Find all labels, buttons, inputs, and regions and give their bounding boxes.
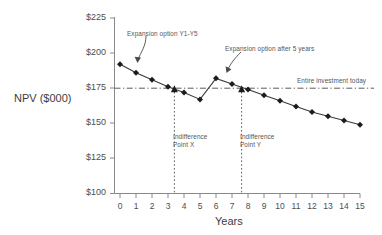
npv-data-point	[229, 81, 235, 87]
npv-data-point	[293, 103, 299, 109]
x-tick-label-14: 14	[337, 201, 351, 211]
npv-data-point	[181, 89, 187, 95]
indifference-point-y-label-line2: Point Y	[240, 141, 261, 149]
npv-data-point	[325, 113, 331, 119]
npv-series-line	[120, 64, 360, 124]
x-tick-label-10: 10	[273, 201, 287, 211]
npv-data-point	[277, 98, 283, 104]
x-tick-label-11: 11	[289, 201, 303, 211]
chart-container: $225 $200 $175 $150 $125 $100 NPV ($000)…	[0, 0, 382, 235]
x-tick-label-6: 6	[209, 201, 223, 211]
x-tick-label-4: 4	[177, 201, 191, 211]
annotation-expansion-y1y5: Expansion option Y1-Y5	[127, 30, 198, 37]
y-axis-title: NPV ($000)	[14, 92, 71, 104]
npv-data-point	[357, 122, 363, 128]
npv-data-point	[341, 117, 347, 123]
x-tick-label-12: 12	[305, 201, 319, 211]
y-tick-label-200: $200	[72, 47, 106, 57]
npv-data-point	[149, 77, 155, 83]
x-tick-label-1: 1	[129, 201, 143, 211]
npv-data-point	[309, 109, 315, 115]
npv-data-point	[245, 87, 251, 93]
indifference-point-x-label-line2: Point X	[173, 141, 194, 149]
annotation-arrow-expansion-y1y5	[138, 36, 147, 61]
y-tick-label-150: $150	[72, 117, 106, 127]
npv-series-markers	[117, 61, 363, 127]
annotation-arrow-expansion-after5	[228, 52, 242, 71]
npv-data-point	[133, 70, 139, 76]
y-tick-label-225: $225	[72, 12, 106, 22]
annotation-entire-investment: Entire investment today	[297, 77, 366, 84]
npv-data-point	[261, 92, 267, 98]
y-tick-label-175: $175	[72, 82, 106, 92]
y-tick-label-100: $100	[72, 187, 106, 197]
x-axis-ticks	[120, 194, 360, 199]
indifference-point-y-label-line1: Indifference	[240, 133, 274, 141]
x-tick-label-3: 3	[161, 201, 175, 211]
indifference-point-x-label-line1: Indifference	[173, 133, 207, 141]
x-tick-label-7: 7	[225, 201, 239, 211]
x-tick-label-9: 9	[257, 201, 271, 211]
y-axis-ticks	[110, 18, 115, 194]
x-tick-label-2: 2	[145, 201, 159, 211]
npv-data-point	[165, 84, 171, 90]
x-tick-label-0: 0	[113, 201, 127, 211]
npv-data-point	[117, 61, 123, 67]
x-tick-label-15: 15	[353, 201, 367, 211]
annotation-arrowhead-expansion-y1y5	[135, 57, 141, 63]
annotation-expansion-after5: Expansion option after 5 years	[225, 45, 314, 52]
x-axis-title: Years	[215, 215, 243, 227]
x-tick-label-13: 13	[321, 201, 335, 211]
x-tick-label-8: 8	[241, 201, 255, 211]
y-tick-label-125: $125	[72, 152, 106, 162]
x-tick-label-5: 5	[193, 201, 207, 211]
